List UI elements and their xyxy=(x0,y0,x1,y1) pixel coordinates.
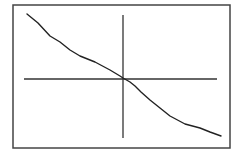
data-curve xyxy=(27,14,221,136)
line-chart xyxy=(0,0,243,160)
